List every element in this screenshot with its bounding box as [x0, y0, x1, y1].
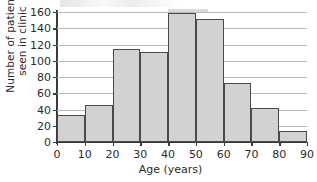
x-axis-tick-label: 10 [78, 149, 92, 160]
y-axis-tick-mark [53, 28, 57, 29]
x-axis-tick-mark [168, 142, 169, 146]
x-axis-tick-mark [224, 142, 225, 146]
x-axis-tick-label: 90 [300, 149, 314, 160]
y-axis-tick-label: 160 [30, 7, 51, 18]
x-axis-tick-label: 40 [161, 149, 175, 160]
histogram-bar [251, 108, 279, 142]
histogram-bar [140, 52, 168, 142]
x-axis-tick-label: 50 [189, 149, 203, 160]
y-axis-tick-label: 120 [30, 39, 51, 50]
y-axis-tick-label: 40 [37, 104, 51, 115]
x-axis-tick-label: 20 [106, 149, 120, 160]
histogram-figure: Number of patients seen in clinic 020406… [0, 0, 317, 182]
histogram-bar [224, 83, 252, 142]
y-axis-tick-label: 60 [37, 88, 51, 99]
x-axis-tick-mark [196, 142, 197, 146]
y-axis-tick-label: 100 [30, 55, 51, 66]
y-axis-tick-mark [53, 45, 57, 46]
x-axis-tick-label: 0 [54, 149, 61, 160]
x-axis-tick-label: 30 [133, 149, 147, 160]
y-axis-tick-mark [53, 77, 57, 78]
histogram-bar [85, 105, 113, 142]
x-axis-tick-mark [279, 142, 280, 146]
histogram-bar [196, 19, 224, 143]
y-axis-tick-label: 20 [37, 120, 51, 131]
scan-artifact [60, 0, 180, 7]
x-axis-tick-mark [113, 142, 114, 146]
y-axis-title: Number of patients seen in clinic [0, 0, 33, 101]
plot-area: 020406080100120140160 010203040506070809… [57, 12, 307, 142]
y-axis-tick-mark [53, 110, 57, 111]
y-axis-tick-label: 140 [30, 23, 51, 34]
y-axis-title-line-2: seen in clinic [16, 6, 28, 76]
x-axis-tick-label: 80 [272, 149, 286, 160]
y-axis-tick-mark [53, 93, 57, 94]
y-axis-tick-mark [53, 61, 57, 62]
x-axis-title-text: Age (years) [115, 163, 203, 176]
x-axis-tick-mark [307, 142, 308, 146]
histogram-bar [168, 13, 196, 142]
x-axis-tick-label: 60 [217, 149, 231, 160]
y-axis-tick-mark [53, 12, 57, 13]
histogram-bar [57, 115, 85, 142]
y-axis-tick-label: 0 [44, 137, 51, 148]
histogram-bar [113, 49, 141, 142]
x-axis-tick-mark [57, 142, 58, 146]
y-axis-title-line-1: Number of patients [4, 0, 16, 93]
x-axis-tick-mark [251, 142, 252, 146]
x-axis-tick-mark [140, 142, 141, 146]
x-axis-title: Age (years) [0, 163, 317, 176]
y-axis-tick-label: 80 [37, 72, 51, 83]
histogram-bar [279, 131, 307, 142]
x-axis-tick-mark [85, 142, 86, 146]
x-axis-tick-label: 70 [244, 149, 258, 160]
